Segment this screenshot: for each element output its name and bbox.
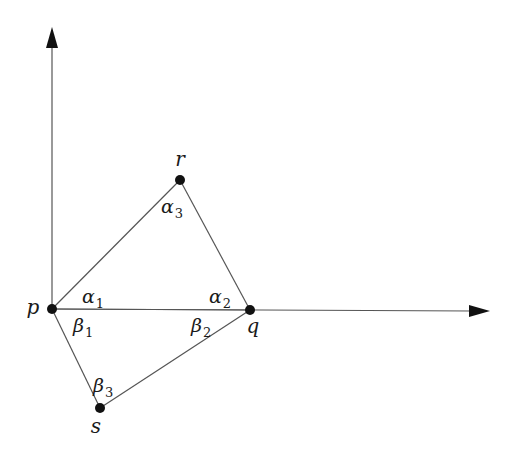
axes [46,27,490,317]
geometry-diagram: prqs α1α2α3β1β2β3 [0,0,511,457]
point-label-r: r [175,147,186,171]
point-label-p: p [27,295,40,319]
edge-p-q [52,309,250,310]
edge-s-q [100,310,250,408]
angle-label-alpha2: α2 [209,285,231,311]
point-labels: prqs [27,147,260,438]
point-r [175,175,185,185]
angle-label-beta2: β2 [190,314,211,340]
point-p [47,304,57,314]
point-label-q: q [247,314,260,338]
y-axis-arrowhead-icon [46,27,58,48]
angle-label-alpha3: α3 [161,195,183,221]
angle-label-beta1: β1 [72,314,93,340]
angle-label-beta3: β3 [92,374,113,400]
points [47,175,255,413]
angle-label-alpha1: α1 [82,285,104,311]
angle-labels: α1α2α3β1β2β3 [72,195,231,400]
point-label-s: s [91,414,101,438]
point-s [95,403,105,413]
x-axis-arrowhead-icon [469,305,490,317]
